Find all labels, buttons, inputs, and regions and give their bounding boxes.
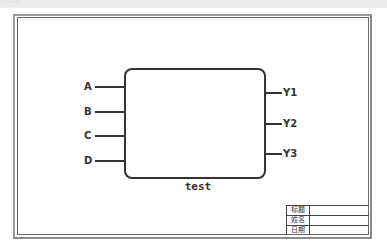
- toolbar-text: ········: [1, 0, 20, 5]
- input-pin-label-d: D: [84, 156, 92, 166]
- title-block-row: 日期: [287, 226, 369, 236]
- input-pin-a[interactable]: [95, 86, 124, 88]
- output-pin-label-y3: Y3: [283, 149, 297, 159]
- title-block-value-date[interactable]: [310, 226, 369, 235]
- title-block-row: 标题: [287, 206, 369, 216]
- output-pin-label-y2: Y2: [283, 119, 297, 129]
- output-pin-y3[interactable]: [266, 153, 282, 155]
- input-pin-label-b: B: [84, 107, 92, 117]
- input-pin-b[interactable]: [95, 111, 124, 113]
- output-pin-y2[interactable]: [266, 123, 282, 125]
- input-pin-c[interactable]: [95, 135, 124, 137]
- title-block-label-name: 姓名: [287, 216, 310, 225]
- top-toolbar-strip: ········: [0, 0, 387, 8]
- output-pin-y1[interactable]: [266, 92, 282, 94]
- title-block-label-date: 日期: [287, 226, 310, 235]
- title-block-row: 姓名: [287, 216, 369, 226]
- title-block: 标题 姓名 日期: [286, 205, 369, 235]
- input-pin-d[interactable]: [95, 160, 124, 162]
- component-block[interactable]: [124, 68, 266, 179]
- output-pin-label-y1: Y1: [283, 88, 297, 98]
- input-pin-label-a: A: [84, 82, 92, 92]
- title-block-label-title: 标题: [287, 206, 310, 215]
- input-pin-label-c: C: [84, 131, 91, 141]
- title-block-value-name[interactable]: [310, 216, 369, 225]
- block-name-label: test: [180, 180, 216, 193]
- title-block-value-title[interactable]: [310, 206, 369, 215]
